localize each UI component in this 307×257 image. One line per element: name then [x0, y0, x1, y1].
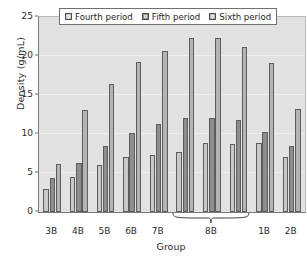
y-tick-label: 5	[27, 167, 33, 177]
bar	[189, 38, 195, 212]
bar	[162, 51, 168, 212]
x-axis-title: Group	[38, 241, 304, 252]
bar	[103, 146, 109, 212]
x-tick-label: 7B	[152, 226, 164, 236]
bar	[230, 144, 236, 212]
legend-item: Fourth period	[65, 12, 133, 22]
square-swatch-icon	[65, 13, 72, 20]
y-tick-label: 20	[22, 50, 33, 60]
bar	[183, 118, 189, 212]
bar	[56, 164, 62, 212]
legend-label: Fifth period	[152, 12, 201, 22]
x-axis-ticks: 3B4B5B6B7B8B1B2B	[38, 226, 304, 240]
bar	[43, 189, 49, 212]
bar	[215, 38, 221, 212]
legend-item: Fifth period	[142, 12, 201, 22]
legend-label: Sixth period	[219, 12, 271, 22]
y-tick-label: 10	[22, 128, 33, 138]
bar	[262, 132, 268, 212]
gridline	[39, 94, 305, 95]
y-axis-ticks: 0510152025	[0, 0, 38, 257]
x-tick-label: 4B	[72, 226, 84, 236]
bar	[109, 84, 115, 212]
bar	[76, 163, 82, 212]
y-tick-label: 0	[27, 206, 33, 216]
bar	[136, 62, 142, 212]
x-tick-label: 6B	[125, 226, 137, 236]
x-tick-label: 3B	[45, 226, 57, 236]
bar	[123, 157, 129, 212]
bar	[256, 143, 262, 212]
bar	[70, 177, 76, 212]
x-tick-label: 8B	[205, 226, 217, 236]
bar	[289, 146, 295, 212]
square-swatch-icon	[209, 13, 216, 20]
chart-legend: Fourth periodFifth periodSixth period	[59, 8, 277, 25]
bar	[50, 178, 56, 212]
group-brace-8b	[38, 212, 304, 224]
bar	[203, 143, 209, 212]
bar	[295, 109, 301, 212]
bar	[283, 157, 289, 212]
x-tick-label: 1B	[258, 226, 270, 236]
legend-item: Sixth period	[209, 12, 271, 22]
plot-area	[38, 16, 306, 213]
bar	[150, 155, 156, 212]
square-swatch-icon	[142, 13, 149, 20]
bar	[97, 165, 103, 212]
bar	[82, 110, 88, 212]
bar	[209, 118, 215, 212]
bar	[129, 133, 135, 212]
y-tick-label: 15	[22, 89, 33, 99]
x-tick-label: 2B	[285, 226, 297, 236]
y-tick-label: 25	[22, 11, 33, 21]
x-tick-label: 5B	[99, 226, 111, 236]
gridline	[39, 55, 305, 56]
bar	[176, 152, 182, 212]
legend-label: Fourth period	[75, 12, 133, 22]
bar	[236, 120, 242, 212]
bar	[269, 63, 275, 212]
bar	[242, 47, 248, 212]
bar-chart: Density (g/mL) 0510152025 Fourth periodF…	[0, 0, 307, 257]
bar	[156, 124, 162, 212]
